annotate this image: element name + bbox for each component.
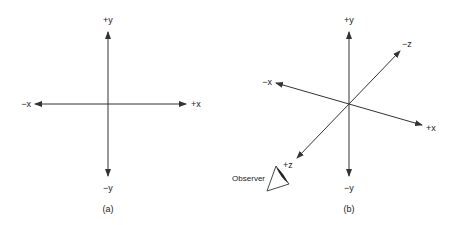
label-neg-x: −x: [21, 99, 31, 109]
label-neg-x: −x: [262, 77, 272, 87]
label-neg-y: −y: [344, 183, 354, 193]
figure-b-3d-axes: +y −y +x −x −z +z Observer (b): [232, 15, 436, 214]
figure-a-2d-axes: +y −y +x −x (a): [21, 15, 201, 214]
caption-a: (a): [103, 204, 114, 214]
label-pos-x: +x: [191, 99, 201, 109]
label-pos-x: +x: [426, 123, 436, 133]
label-pos-z: +z: [283, 160, 293, 170]
label-neg-y: −y: [103, 183, 113, 193]
label-pos-y: +y: [344, 15, 354, 25]
pos-z-axis-arrow: [297, 104, 349, 158]
neg-z-axis-arrow: [349, 51, 400, 104]
coordinate-systems-diagram: +y −y +x −x (a) +y −y +x −x −z +z Observ…: [0, 0, 454, 225]
caption-b: (b): [344, 204, 355, 214]
label-neg-z: −z: [402, 39, 412, 49]
neg-x-axis-arrow: [276, 83, 349, 104]
pos-x-axis-arrow: [349, 104, 422, 125]
observer-label: Observer: [232, 174, 265, 183]
label-pos-y: +y: [103, 15, 113, 25]
